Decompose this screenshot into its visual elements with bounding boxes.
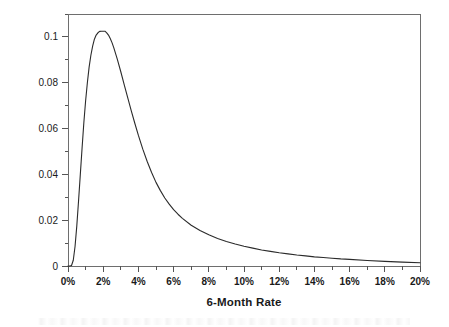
x-axis-title: 6-Month Rate (68, 296, 420, 308)
x-tick-label: 14% (304, 276, 324, 287)
y-tick-label: 0 (52, 261, 58, 272)
x-tick-label: 18% (375, 276, 395, 287)
x-tick-label: 2% (96, 276, 111, 287)
chart-plot-area: 0%2%4%6%8%10%12%14%16%18%20% 00.020.040.… (0, 0, 449, 327)
y-tick-label: 0.06 (39, 123, 59, 134)
plot-frame (68, 14, 420, 266)
x-tick-label: 10% (234, 276, 254, 287)
x-tick-label: 6% (166, 276, 181, 287)
y-tick-label: 0.1 (44, 31, 58, 42)
y-axis-tick-labels: 00.020.040.060.080.1 (39, 31, 59, 271)
x-tick-label: 0% (61, 276, 76, 287)
y-tick-label: 0.04 (39, 169, 59, 180)
probability-curve (68, 31, 420, 266)
x-tick-label: 8% (202, 276, 217, 287)
probability-distribution-chart: 0%2%4%6%8%10%12%14%16%18%20% 00.020.040.… (0, 0, 449, 327)
y-axis-ticks (62, 14, 68, 266)
y-tick-label: 0.02 (39, 215, 59, 226)
x-tick-label: 4% (131, 276, 146, 287)
x-axis-ticks (68, 266, 420, 272)
x-tick-label: 20% (410, 276, 430, 287)
y-tick-label: 0.08 (39, 77, 59, 88)
x-tick-label: 12% (269, 276, 289, 287)
x-axis-tick-labels: 0%2%4%6%8%10%12%14%16%18%20% (61, 276, 430, 287)
x-tick-label: 16% (340, 276, 360, 287)
